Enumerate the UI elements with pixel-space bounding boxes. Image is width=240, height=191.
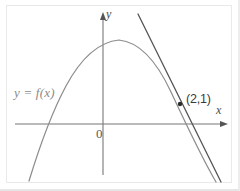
origin-label: 0	[96, 127, 103, 140]
function-label: y = f(x)	[14, 86, 55, 99]
graph-figure: y = f(x) (2,1) x y 0	[0, 0, 240, 191]
x-axis-label: x	[216, 104, 221, 116]
y-axis	[100, 12, 106, 175]
x-axis	[15, 121, 228, 127]
tangent-point-marker	[178, 102, 182, 106]
x-axis-arrow-icon	[220, 121, 228, 127]
y-axis-label: y	[106, 8, 111, 20]
parabola-curve	[29, 40, 216, 182]
tangent-point-label: (2,1)	[186, 93, 211, 106]
